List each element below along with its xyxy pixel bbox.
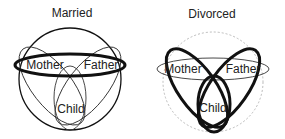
family-structure-diagram: Married Mother Father Child Divorced [0,0,285,139]
married-mother-child-loop [7,37,96,136]
married-panel: Married Mother Father Child [7,6,132,135]
married-title: Married [52,6,93,20]
married-child-label: Child [57,102,84,116]
divorced-mother-label: Mother [164,62,201,76]
married-mother-label: Mother [26,58,63,72]
married-father-child-loop [43,37,132,136]
divorced-child-label: Child [199,101,226,115]
divorced-father-label: Father [226,62,261,76]
married-father-label: Father [84,58,119,72]
divorced-panel: Divorced Mother Father Child [155,7,271,137]
diagram-svg: Married Mother Father Child Divorced [0,0,285,139]
divorced-family-circle [163,32,263,132]
divorced-title: Divorced [188,7,235,21]
